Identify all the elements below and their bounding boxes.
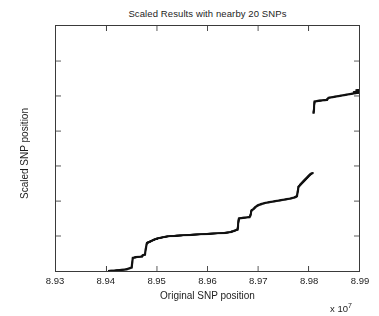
x-axis-multiplier-exponent: 7 [348,302,352,309]
x-tick-label: 8.98 [285,275,333,286]
x-axis-multiplier: x 107 [330,302,352,314]
x-tick-label: 8.99 [336,275,379,286]
x-tick-label: 8.95 [133,275,181,286]
x-tick-label: 8.96 [184,275,232,286]
x-tick-label: 8.93 [31,275,79,286]
x-axis-label: Original SNP position [55,290,360,301]
x-axis-tick-labels: 8.938.948.958.968.978.988.99 [0,0,379,316]
x-tick-label: 8.97 [234,275,282,286]
figure-container: Scaled Results with nearby 20 SNPs 00.20… [0,0,379,316]
y-axis-label: Scaled SNP position [19,44,30,264]
x-tick-label: 8.94 [82,275,130,286]
x-axis-multiplier-base: x 10 [330,303,348,314]
